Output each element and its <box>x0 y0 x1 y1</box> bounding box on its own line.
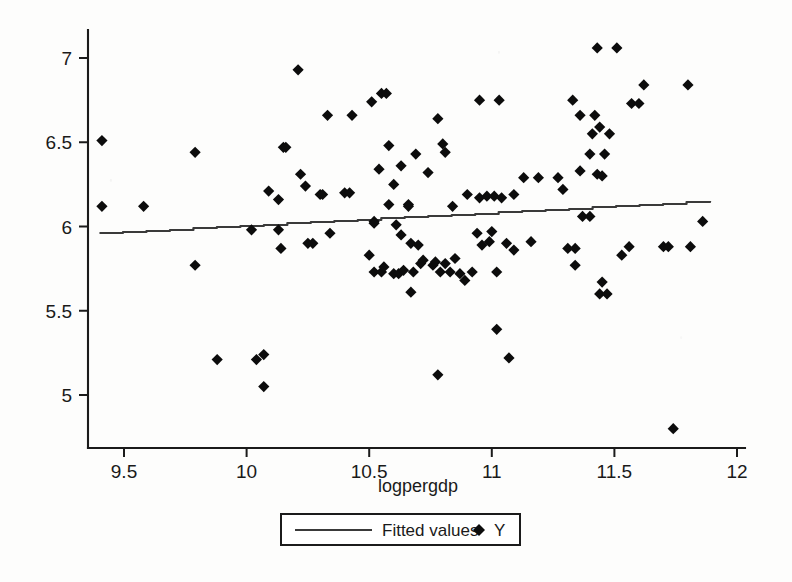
scatter-point <box>190 260 201 271</box>
scatter-point <box>96 201 107 212</box>
scatter-point <box>190 147 201 158</box>
x-axis-ticks <box>124 448 737 457</box>
scatter-point <box>467 266 478 277</box>
scatter-point <box>322 110 333 121</box>
scatter-point <box>597 277 608 288</box>
scatter-point <box>533 172 544 183</box>
scatter-point <box>383 199 394 210</box>
legend-label-fitted-values: Fitted values <box>382 521 478 540</box>
scatter-point <box>503 352 514 363</box>
x-axis-title: logpergdp <box>378 476 458 496</box>
y-tick-label: 5.5 <box>46 301 72 322</box>
scatter-point <box>594 121 605 132</box>
x-tick-label: 9.5 <box>111 461 137 482</box>
scatter-point <box>432 113 443 124</box>
x-tick-label: 12 <box>726 461 747 482</box>
scatter-point <box>383 140 394 151</box>
scatter-point <box>496 192 507 203</box>
scatter-point <box>300 180 311 191</box>
scatter-point <box>273 194 284 205</box>
scatter-point <box>258 381 269 392</box>
y-tick-label: 5 <box>61 385 72 406</box>
scatter-point <box>638 79 649 90</box>
scatter-point <box>437 138 448 149</box>
scatter-point <box>373 164 384 175</box>
scatter-point <box>491 266 502 277</box>
scatter-point <box>567 95 578 106</box>
scatter-point <box>324 228 335 239</box>
scatter-point <box>432 369 443 380</box>
scatter-point <box>447 201 458 212</box>
scatter-point <box>601 288 612 299</box>
scatter-point <box>275 243 286 254</box>
scatter-point <box>405 287 416 298</box>
scatter-point <box>570 243 581 254</box>
scatter-point <box>292 64 303 75</box>
scatter-point <box>685 241 696 252</box>
scatter-point <box>604 128 615 139</box>
scatter-point <box>474 95 485 106</box>
figure-canvas: 55.566.57 9.51010.51111.512 logpergdp Fi… <box>0 0 792 582</box>
scatter-plot: 55.566.57 9.51010.51111.512 logpergdp Fi… <box>0 0 792 582</box>
scatter-point <box>263 186 274 197</box>
scatter-point <box>697 216 708 227</box>
y-tick-label: 7 <box>61 48 72 69</box>
scatter-point <box>364 250 375 261</box>
scatter-point <box>408 266 419 277</box>
scatter-point <box>668 423 679 434</box>
scatter-point <box>403 201 414 212</box>
scatter-point <box>624 241 635 252</box>
scatter-point <box>391 219 402 230</box>
scatter-point <box>346 110 357 121</box>
legend: Fitted values Y <box>281 514 520 545</box>
scatter-point <box>584 148 595 159</box>
scatter-point <box>486 226 497 237</box>
scatter-point <box>633 98 644 109</box>
scatter-point <box>422 167 433 178</box>
scatter-point <box>440 147 451 158</box>
scatter-point <box>508 244 519 255</box>
scatter-point <box>616 250 627 261</box>
x-tick-label: 11 <box>482 461 502 482</box>
scatter-point <box>584 211 595 222</box>
y-axis-tick-labels: 55.566.57 <box>46 48 72 406</box>
scatter-point <box>462 189 473 200</box>
scatter-point <box>138 201 149 212</box>
scatter-point <box>599 148 610 159</box>
scatter-point <box>682 79 693 90</box>
scatter-point <box>592 42 603 53</box>
scatter-point <box>494 95 505 106</box>
scatter-point <box>413 239 424 250</box>
scatter-point <box>212 354 223 365</box>
scatter-point <box>395 229 406 240</box>
legend-label-y: Y <box>494 521 505 540</box>
scatter-points-group <box>96 42 708 434</box>
scatter-point <box>525 236 536 247</box>
y-axis-ticks <box>79 58 88 395</box>
scatter-point <box>471 228 482 239</box>
scatter-point <box>552 172 563 183</box>
x-tick-label: 11.5 <box>597 461 633 482</box>
scatter-point <box>96 135 107 146</box>
scatter-point <box>491 324 502 335</box>
scatter-point <box>557 184 568 195</box>
scatter-point <box>449 253 460 264</box>
scatter-point <box>574 110 585 121</box>
scatter-point <box>395 160 406 171</box>
scatter-point <box>388 179 399 190</box>
y-axis-group: 55.566.57 <box>46 30 88 448</box>
x-tick-label: 10 <box>236 461 257 482</box>
scatter-point <box>518 172 529 183</box>
scatter-point <box>587 128 598 139</box>
scatter-point <box>295 169 306 180</box>
y-tick-label: 6 <box>61 217 72 238</box>
scatter-point <box>508 189 519 200</box>
scatter-point <box>611 42 622 53</box>
scatter-point <box>589 110 600 121</box>
scatter-point <box>501 238 512 249</box>
scatter-point <box>366 96 377 107</box>
scatter-point <box>570 260 581 271</box>
scatter-point <box>410 148 421 159</box>
y-tick-label: 6.5 <box>46 132 72 153</box>
scatter-point <box>574 165 585 176</box>
